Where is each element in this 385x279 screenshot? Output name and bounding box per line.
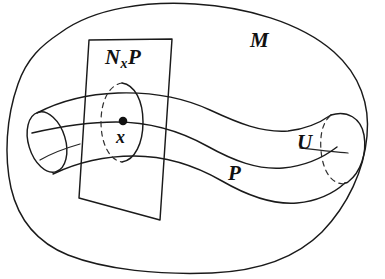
base-point-dot bbox=[119, 117, 128, 126]
label-ambient-manifold: M bbox=[250, 30, 269, 51]
label-normal-space-subscript: x bbox=[120, 56, 127, 71]
label-normal-space-N: N bbox=[105, 45, 120, 69]
tube-top-edge bbox=[37, 93, 331, 131]
ambient-manifold-outline bbox=[7, 3, 368, 273]
tube-left-cap-ruling bbox=[40, 144, 80, 160]
figure-canvas: M NxP x P U bbox=[0, 0, 385, 279]
tube-bottom-edge bbox=[53, 156, 345, 203]
label-normal-space: NxP bbox=[105, 47, 141, 71]
tube-left-cap-ellipse bbox=[20, 107, 74, 177]
label-submanifold: P bbox=[228, 163, 241, 184]
label-base-point: x bbox=[116, 128, 125, 146]
label-neighborhood: U bbox=[297, 132, 312, 153]
label-normal-space-P: P bbox=[128, 45, 141, 69]
diagram-svg bbox=[0, 0, 385, 279]
